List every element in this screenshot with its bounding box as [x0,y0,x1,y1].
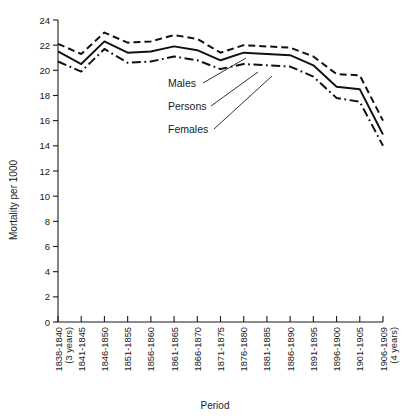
x-tick-label: 1896-1900 [332,327,342,371]
x-tick-label: 1846-1850 [100,327,110,371]
y-tick-label: 2 [45,291,50,302]
y-axis-title: Mortality per 1000 [8,160,19,240]
y-tick-label: 12 [39,166,50,177]
x-tick-label: 1871-1875 [216,327,226,371]
x-tick-label: 1866-1870 [193,327,203,371]
x-axis-title: Period [201,400,230,411]
x-tick-label: 1906-1909 [379,327,389,371]
y-tick-label: 20 [39,65,50,76]
x-tick-label: 1891-1895 [309,327,319,371]
y-tick-label: 8 [45,216,50,227]
x-tick-sublabel: (3 years) [64,327,74,364]
x-tick-sublabel: (4 years) [389,327,399,364]
y-tick-label: 16 [39,115,50,126]
y-tick-label: 10 [39,191,50,202]
chart-figure: 024681012141618202224 1838-1840(3 years)… [0,0,408,420]
series-label-males: Males [168,77,196,89]
y-tick-label: 24 [39,15,50,26]
x-tick-label: 1901-1905 [355,327,365,371]
y-tick-label: 0 [45,317,50,328]
x-tick-label: 1886-1890 [286,327,296,371]
x-tick-label: 1881-1885 [262,327,272,371]
x-tick-label: 1851-1855 [123,327,133,371]
series-label-females: Females [168,123,208,135]
x-tick-label: 1856-1860 [146,327,156,371]
y-tick-label: 18 [39,90,50,101]
mortality-line-chart: 024681012141618202224 1838-1840(3 years)… [0,0,408,420]
y-tick-label: 4 [45,266,50,277]
y-tick-label: 22 [39,40,50,51]
x-tick-label: 1841-1845 [77,327,87,371]
y-tick-label: 14 [39,140,50,151]
x-tick-label: 1861-1865 [170,327,180,371]
y-tick-label: 6 [45,241,50,252]
series-label-persons: Persons [168,100,207,112]
x-tick-label: 1876-1880 [239,327,249,371]
x-tick-label: 1838-1840 [54,327,64,371]
